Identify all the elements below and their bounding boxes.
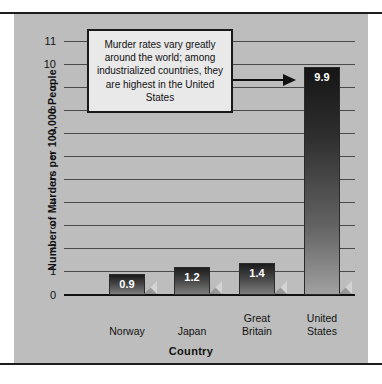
arrow-line — [233, 79, 285, 81]
annotation-text: Murder rates vary greatly around the wor… — [93, 38, 227, 104]
arrow-head — [283, 74, 296, 86]
y-tick-label: 3 — [34, 219, 56, 231]
y-tick-label: 0 — [34, 289, 56, 301]
bar-japan[interactable]: 1.2 — [174, 267, 210, 295]
bottom-divider-rule — [0, 363, 382, 365]
bar-shadow-wedge — [144, 281, 157, 294]
bar-norway[interactable]: 0.9 — [109, 274, 145, 295]
y-tick-label: 9 — [34, 81, 56, 93]
y-tick-label: 11 — [34, 35, 56, 47]
bar-great-britain[interactable]: 1.4 — [239, 263, 275, 295]
x-axis-title: Country — [14, 345, 368, 357]
y-tick-label: 5 — [34, 173, 56, 185]
y-tick-label: 10 — [34, 58, 56, 70]
bar-group-japan[interactable]: 1.2 — [174, 267, 210, 295]
bar-value-label: 1.2 — [175, 271, 209, 283]
y-tick-label: 4 — [34, 196, 56, 208]
bar-group-norway[interactable]: 0.9 — [109, 274, 145, 295]
bar-shadow-wedge — [339, 281, 352, 294]
x-category-label-united-states: United States — [283, 312, 361, 337]
bar-value-label: 0.9 — [110, 278, 144, 290]
bar-group-united-states[interactable]: 9.9 — [304, 67, 340, 295]
annotation-callout: Murder rates vary greatly around the wor… — [87, 29, 233, 113]
y-tick-label: 1 — [34, 265, 56, 277]
chart-page: Number of Murders per 100,000 People 11 … — [0, 0, 382, 384]
bar-shadow-wedge — [274, 281, 287, 294]
category-line: States — [283, 325, 361, 338]
annotation-arrow-icon — [233, 74, 299, 86]
bar-value-label: 9.9 — [305, 71, 339, 83]
bar-value-label: 1.4 — [240, 267, 274, 279]
y-tick-label: 8 — [34, 104, 56, 116]
bar-united-states[interactable]: 9.9 — [304, 67, 340, 295]
y-tick-label: 2 — [34, 242, 56, 254]
y-tick-label: 7 — [34, 127, 56, 139]
bar-shadow-wedge — [209, 281, 222, 294]
bar-group-great-britain[interactable]: 1.4 — [239, 263, 275, 295]
chart-panel: Number of Murders per 100,000 People 11 … — [14, 14, 368, 363]
category-line: United — [283, 312, 361, 325]
y-tick-label: 6 — [34, 150, 56, 162]
